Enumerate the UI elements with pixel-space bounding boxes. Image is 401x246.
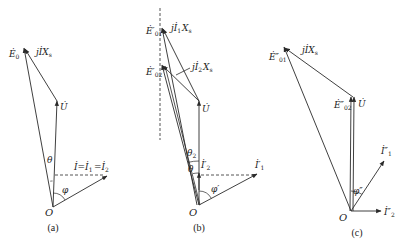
label: Xs bbox=[181, 23, 192, 34]
label: Ė″01 bbox=[268, 51, 287, 63]
phasor-diagram-figure: Ė0jİXsU̇θİ=İ1=İ2φO(a) Ė′01jİ1XsĖ′02jİ2Xs… bbox=[0, 0, 401, 246]
label: Xs bbox=[202, 62, 213, 73]
origin-label: O bbox=[189, 207, 197, 218]
label: İ″1 bbox=[380, 145, 392, 157]
phi-prime-arc bbox=[199, 191, 211, 198]
label: jİ1 bbox=[169, 22, 181, 34]
label: Ė″02 bbox=[333, 99, 352, 111]
label: jİ2 bbox=[190, 61, 202, 73]
label: İ′2 bbox=[200, 159, 211, 171]
panel-a: Ė0jİXsU̇θİ=İ1=İ2φO(a) bbox=[8, 46, 109, 234]
vector-e0 bbox=[24, 48, 53, 207]
panel-c: Ė″01jİXsĖ″02U̇İ″1φ″İ″2O(c) bbox=[268, 44, 395, 239]
label: θ bbox=[47, 155, 53, 165]
vector-u bbox=[53, 101, 57, 207]
vector-e02-prime bbox=[162, 65, 199, 205]
guide-line bbox=[165, 66, 200, 205]
label: φ bbox=[62, 185, 69, 195]
label: Ė′01 bbox=[145, 25, 162, 37]
phasor-diagram-svg: Ė0jİXsU̇θİ=İ1=İ2φO(a) Ė′01jİ1XsĖ′02jİ2Xs… bbox=[0, 0, 401, 246]
origin-label: O bbox=[339, 212, 347, 223]
panel-caption: (a) bbox=[47, 222, 58, 234]
label: jİXs bbox=[34, 46, 52, 58]
label: İ″2 bbox=[383, 206, 395, 218]
vector-jixs bbox=[285, 48, 353, 97]
label: φ′ bbox=[211, 184, 219, 194]
label: θ bbox=[188, 164, 194, 174]
label: U̇ bbox=[358, 98, 366, 109]
panel-caption: (c) bbox=[351, 227, 362, 239]
label: İ′1 bbox=[254, 159, 264, 171]
theta2-arc bbox=[188, 161, 199, 162]
label: θ2 bbox=[187, 148, 196, 159]
label: Ė0 bbox=[8, 48, 20, 60]
panel-b: Ė′01jİ1XsĖ′02jİ2XsU̇θ2θİ′2İ′1φ′O(b) bbox=[145, 8, 264, 234]
vector-e02-double-prime bbox=[350, 97, 351, 211]
theta1-arc bbox=[193, 173, 199, 174]
label: jİXs bbox=[300, 44, 318, 56]
vector-i1-prime bbox=[199, 174, 257, 205]
label: U̇ bbox=[202, 103, 210, 114]
label: φ″ bbox=[353, 186, 363, 196]
panel-caption: (b) bbox=[193, 222, 205, 234]
label: İ=İ1 bbox=[73, 161, 92, 173]
label: Ė′02 bbox=[145, 66, 162, 78]
label: U̇ bbox=[60, 101, 68, 112]
label: =İ2 bbox=[94, 161, 109, 173]
origin-label: O bbox=[45, 207, 53, 218]
